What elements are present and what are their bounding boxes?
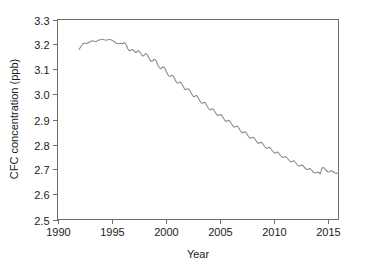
x-tick-label: 1990 bbox=[46, 226, 70, 238]
y-tick-label: 3.1 bbox=[34, 64, 49, 76]
x-tick-label: 2000 bbox=[154, 226, 178, 238]
y-tick-label: 2.7 bbox=[34, 164, 49, 176]
data-series bbox=[79, 39, 338, 174]
y-tick-label: 3.2 bbox=[34, 39, 49, 51]
plot-frame bbox=[58, 20, 339, 220]
tick-marks bbox=[53, 21, 329, 225]
y-tick-label: 3.0 bbox=[34, 89, 49, 101]
x-tick-labels: 199019952000200520102015 bbox=[46, 226, 340, 238]
y-tick-label: 2.6 bbox=[34, 189, 49, 201]
x-tick-label: 1995 bbox=[100, 226, 124, 238]
x-axis-title: Year bbox=[187, 248, 210, 260]
y-tick-label: 2.5 bbox=[34, 215, 49, 227]
y-tick-label: 2.9 bbox=[34, 115, 49, 127]
y-tick-label: 2.8 bbox=[34, 140, 49, 152]
x-tick-label: 2015 bbox=[316, 226, 340, 238]
y-tick-labels: 2.52.62.72.82.93.03.13.23.3 bbox=[34, 15, 49, 227]
axes bbox=[58, 20, 339, 220]
x-tick-label: 2005 bbox=[208, 226, 232, 238]
data-line-cfc-concentration bbox=[79, 39, 338, 174]
x-tick-label: 2010 bbox=[262, 226, 286, 238]
cfc-concentration-line-chart: 199019952000200520102015 2.52.62.72.82.9… bbox=[0, 0, 370, 270]
chart-figure: 199019952000200520102015 2.52.62.72.82.9… bbox=[0, 0, 370, 270]
y-tick-label: 3.3 bbox=[34, 15, 49, 27]
y-axis-title: CFC concentration (ppb) bbox=[8, 59, 20, 179]
